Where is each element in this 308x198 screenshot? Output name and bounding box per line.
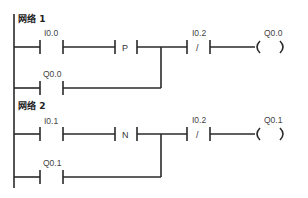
network-2: 网络 2 I0.1 N Q0.1 / I0.2 <box>14 100 283 184</box>
coil-q0-1[interactable]: Q0.1 <box>257 115 283 140</box>
contact-label: I0.2 <box>192 115 206 125</box>
negative-edge-contact[interactable]: N <box>115 127 137 141</box>
network-1: 网络 1 I0.0 P Q0.0 / I0.2 <box>14 13 283 95</box>
coil-label: Q0.0 <box>264 28 283 38</box>
nc-symbol: / <box>196 43 199 53</box>
coil-q0-0[interactable]: Q0.0 <box>257 28 283 53</box>
edge-symbol: P <box>122 43 128 53</box>
network-2-title: 网络 2 <box>18 100 45 111</box>
edge-symbol: N <box>122 130 129 140</box>
contact-label: Q0.0 <box>43 69 62 79</box>
network-1-title: 网络 1 <box>18 13 45 24</box>
nc-symbol: / <box>196 130 199 140</box>
coil-label: Q0.1 <box>264 115 283 125</box>
contact-q0-1-branch[interactable]: Q0.1 <box>14 158 63 184</box>
contact-i0-0[interactable]: I0.0 <box>14 28 63 54</box>
nc-contact-i0-2[interactable]: / I0.2 <box>187 28 210 54</box>
contact-label: I0.2 <box>192 28 206 38</box>
nc-contact-i0-2[interactable]: / I0.2 <box>187 115 210 141</box>
contact-label: I0.1 <box>44 116 58 126</box>
contact-q0-0-branch[interactable]: Q0.0 <box>14 69 63 95</box>
positive-edge-contact[interactable]: P <box>115 40 137 54</box>
ladder-diagram: 网络 1 I0.0 P Q0.0 / I0.2 <box>0 0 308 198</box>
contact-label: I0.0 <box>44 28 58 38</box>
contact-label: Q0.1 <box>43 158 62 168</box>
contact-i0-1[interactable]: I0.1 <box>14 116 63 141</box>
